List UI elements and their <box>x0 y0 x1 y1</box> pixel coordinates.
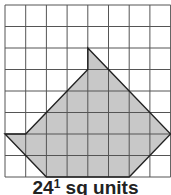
area-fraction: 1 <box>54 177 61 191</box>
area-units: sq units <box>60 177 138 195</box>
area-caption: 241 sq units <box>0 178 171 195</box>
area-grid-diagram <box>0 0 171 180</box>
area-whole: 24 <box>33 177 54 195</box>
